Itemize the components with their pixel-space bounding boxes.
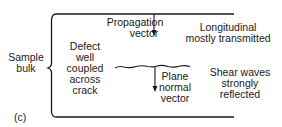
sample-brace <box>48 14 56 117</box>
shear-label: Shear waves strongly reflected <box>200 67 280 100</box>
plane-normal-label-line3: vector <box>155 93 195 104</box>
propagation-label: Propagation vector <box>95 17 175 39</box>
longitudinal-label-line2: mostly transmitted <box>178 33 278 44</box>
propagation-label-line2: vector <box>95 28 175 39</box>
side-label: Sample bulk <box>3 52 49 74</box>
crack-line <box>115 65 190 68</box>
defect-label: Defect well coupled across crack <box>60 41 110 96</box>
side-label-line2: bulk <box>3 63 49 74</box>
plane-normal-label: Plane normal vector <box>155 71 195 104</box>
panel-label: (c) <box>14 112 26 123</box>
shear-label-line3: reflected <box>200 89 280 100</box>
defect-label-line5: crack <box>60 85 110 96</box>
longitudinal-label: Longitudinal mostly transmitted <box>178 22 278 44</box>
